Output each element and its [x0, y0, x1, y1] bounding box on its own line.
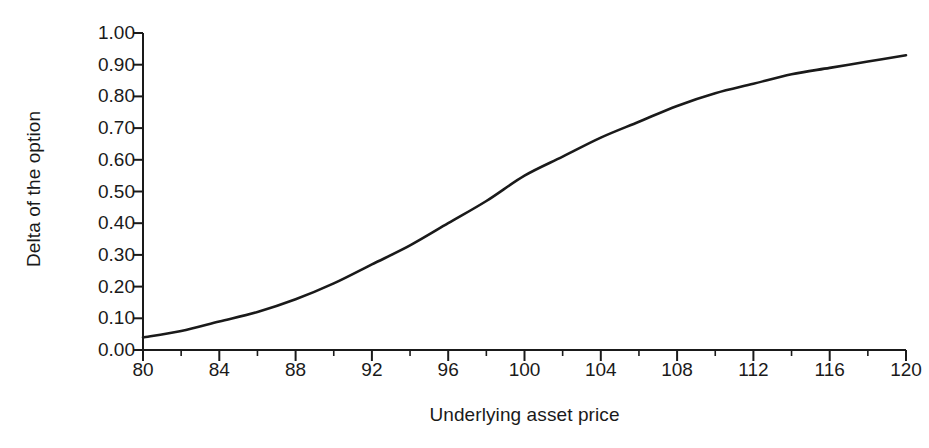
- x-axis-tick-label: 80: [113, 360, 173, 379]
- y-axis-tick-label: 0.30: [65, 245, 135, 264]
- y-axis-tick-label: 0.60: [65, 150, 135, 169]
- y-axis-tick-label: 0.50: [65, 182, 135, 201]
- y-axis-tick-label: 0.20: [65, 277, 135, 296]
- y-axis-title: Delta of the option: [23, 39, 45, 339]
- y-axis-tick-label: 0.00: [65, 340, 135, 359]
- x-axis-tick-label: 112: [723, 360, 783, 379]
- x-axis-tick-label: 92: [342, 360, 402, 379]
- delta-curve-line: [143, 55, 906, 337]
- x-axis-tick-label: 104: [571, 360, 631, 379]
- x-axis-tick-label: 84: [189, 360, 249, 379]
- plot-area: [0, 0, 929, 448]
- x-axis-tick-label: 116: [800, 360, 860, 379]
- x-axis-tick-label: 96: [418, 360, 478, 379]
- x-axis-tick-label: 108: [647, 360, 707, 379]
- delta-chart-figure: Delta of the option Underlying asset pri…: [0, 0, 929, 448]
- x-axis-title: Underlying asset price: [143, 404, 906, 426]
- y-axis-tick-label: 0.40: [65, 213, 135, 232]
- axes-group: [143, 33, 906, 350]
- x-axis-tick-label: 120: [876, 360, 929, 379]
- x-axis-tick-label: 100: [495, 360, 555, 379]
- y-axis-tick-label: 0.80: [65, 86, 135, 105]
- y-axis-tick-label: 0.10: [65, 308, 135, 327]
- x-axis-tick-label: 88: [266, 360, 326, 379]
- y-axis-tick-label: 0.70: [65, 118, 135, 137]
- y-axis-tick-label: 1.00: [65, 23, 135, 42]
- y-axis-tick-label: 0.90: [65, 55, 135, 74]
